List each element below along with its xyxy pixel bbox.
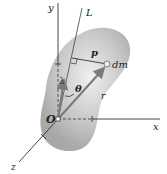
mass-element-dm: [104, 61, 110, 67]
theta-label: θ: [75, 83, 82, 94]
z-axis-label: z: [10, 162, 16, 172]
p-label: p: [91, 47, 98, 58]
r-label: r: [101, 91, 106, 101]
origin-label: O: [46, 113, 56, 126]
axis-L-label: L: [85, 7, 93, 18]
y-axis-label: y: [47, 2, 54, 13]
origin-point: [56, 117, 60, 121]
x-axis-label: x: [153, 121, 159, 132]
mass-element-label: dm: [112, 59, 128, 70]
diagram-canvas: y x z L O dm p λ θ r: [0, 0, 167, 174]
lambda-label: λ: [58, 76, 65, 86]
